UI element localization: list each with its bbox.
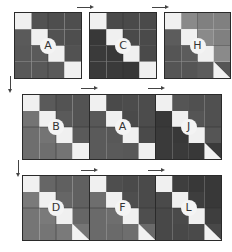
off-diagonal-cell bbox=[139, 127, 155, 143]
off-diagonal-cell bbox=[214, 13, 230, 29]
off-diagonal-cell bbox=[56, 95, 73, 111]
off-diagonal-cell bbox=[90, 29, 107, 45]
off-diagonal-cell bbox=[156, 111, 172, 127]
off-diagonal-cell bbox=[23, 192, 40, 208]
off-diagonal-cell bbox=[140, 29, 157, 45]
off-diagonal-cell bbox=[48, 62, 65, 78]
off-diagonal-cell bbox=[23, 224, 40, 240]
off-diagonal-cell bbox=[189, 224, 205, 240]
diagonal-cell bbox=[23, 176, 40, 192]
arrow-right-icon bbox=[152, 7, 166, 8]
panel-label: H bbox=[190, 38, 206, 54]
off-diagonal-cell bbox=[90, 111, 106, 127]
off-diagonal-cell bbox=[23, 111, 40, 127]
off-diagonal-cell bbox=[181, 13, 197, 29]
off-diagonal-cell bbox=[73, 127, 90, 143]
matrix-panel-C: C bbox=[89, 12, 157, 79]
off-diagonal-cell bbox=[139, 176, 155, 192]
matrix-panel-J: J bbox=[155, 94, 222, 160]
off-diagonal-cell bbox=[172, 143, 188, 159]
off-diagonal-cell bbox=[189, 95, 205, 111]
off-diagonal-cell bbox=[123, 95, 139, 111]
off-diagonal-cell bbox=[23, 208, 40, 224]
off-diagonal-cell bbox=[40, 143, 57, 159]
off-diagonal-cell bbox=[73, 192, 90, 208]
off-diagonal-cell bbox=[23, 127, 40, 143]
off-diagonal-cell bbox=[205, 111, 221, 127]
off-diagonal-cell bbox=[90, 192, 106, 208]
off-diagonal-cell bbox=[40, 95, 57, 111]
off-diagonal-cell bbox=[73, 111, 90, 127]
off-diagonal-cell bbox=[140, 46, 157, 62]
off-diagonal-cell bbox=[106, 95, 122, 111]
matrix-panel-D: D bbox=[22, 175, 90, 241]
off-diagonal-cell bbox=[73, 176, 90, 192]
off-diagonal-cell bbox=[205, 192, 221, 208]
off-diagonal-cell bbox=[107, 62, 124, 78]
off-diagonal-cell bbox=[15, 62, 32, 78]
matrix-panel-B: B bbox=[22, 94, 90, 160]
off-diagonal-cell bbox=[15, 29, 32, 45]
off-diagonal-cell bbox=[156, 127, 172, 143]
arrow-down-icon bbox=[10, 76, 11, 90]
diagonal-cell bbox=[165, 13, 181, 29]
diagonal-cell bbox=[73, 143, 90, 159]
off-diagonal-cell bbox=[40, 224, 57, 240]
arrow-right-icon bbox=[81, 170, 95, 171]
arrow-right-icon bbox=[148, 88, 162, 89]
off-diagonal-cell bbox=[106, 143, 122, 159]
off-diagonal-cell bbox=[123, 143, 139, 159]
off-diagonal-cell bbox=[56, 224, 73, 240]
off-diagonal-cell bbox=[90, 127, 106, 143]
off-diagonal-cell bbox=[123, 13, 140, 29]
panel-label: B bbox=[48, 119, 64, 135]
matrix-panel-H: H bbox=[164, 12, 231, 79]
matrix-panel-F: F bbox=[89, 175, 156, 241]
off-diagonal-cell bbox=[181, 62, 197, 78]
off-diagonal-cell bbox=[56, 143, 73, 159]
off-diagonal-cell bbox=[198, 13, 214, 29]
off-diagonal-cell bbox=[139, 192, 155, 208]
off-diagonal-cell bbox=[165, 62, 181, 78]
diagonal-cell bbox=[156, 176, 172, 192]
off-diagonal-cell bbox=[198, 62, 214, 78]
panel-label: L bbox=[181, 200, 197, 216]
off-diagonal-cell bbox=[15, 46, 32, 62]
off-diagonal-cell bbox=[205, 127, 221, 143]
off-diagonal-cell bbox=[205, 95, 221, 111]
diagonal-cell bbox=[90, 13, 107, 29]
off-diagonal-cell bbox=[165, 29, 181, 45]
off-diagonal-cell bbox=[65, 46, 82, 62]
diagonal-cell bbox=[65, 62, 82, 78]
off-diagonal-cell bbox=[32, 13, 49, 29]
diagonal-cell bbox=[15, 13, 32, 29]
off-diagonal-cell bbox=[90, 62, 107, 78]
panel-label: F bbox=[115, 200, 131, 216]
diagonal-cell bbox=[139, 143, 155, 159]
arrow-right-icon bbox=[77, 7, 91, 8]
off-diagonal-cell bbox=[90, 224, 106, 240]
off-diagonal-cell bbox=[90, 46, 107, 62]
off-diagonal-cell bbox=[172, 176, 188, 192]
arrow-right-icon bbox=[148, 170, 162, 171]
off-diagonal-cell bbox=[90, 208, 106, 224]
off-diagonal-cell bbox=[73, 208, 90, 224]
off-diagonal-cell bbox=[73, 95, 90, 111]
panel-label: J bbox=[181, 119, 197, 135]
off-diagonal-cell bbox=[107, 13, 124, 29]
off-diagonal-cell bbox=[156, 192, 172, 208]
arrow-down-icon bbox=[18, 160, 19, 174]
off-diagonal-cell bbox=[205, 208, 221, 224]
diagonal-cell bbox=[90, 176, 106, 192]
off-diagonal-cell bbox=[32, 62, 49, 78]
off-diagonal-cell bbox=[165, 46, 181, 62]
panel-label: C bbox=[115, 38, 131, 54]
matrix-panel-L: L bbox=[155, 175, 222, 241]
off-diagonal-cell bbox=[123, 176, 139, 192]
diagonal-cell bbox=[90, 95, 106, 111]
matrix-panel-A2: A bbox=[89, 94, 156, 160]
matrix-panel-A: A bbox=[14, 12, 82, 79]
off-diagonal-cell bbox=[65, 13, 82, 29]
off-diagonal-cell bbox=[48, 13, 65, 29]
off-diagonal-cell bbox=[90, 143, 106, 159]
